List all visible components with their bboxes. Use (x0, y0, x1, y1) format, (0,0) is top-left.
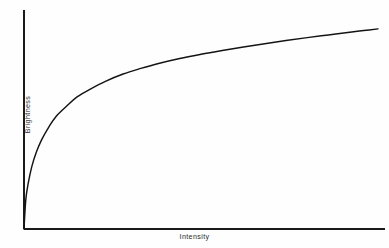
axes-group (24, 10, 385, 229)
chart-figure: Brightness Intensity (0, 0, 389, 248)
data-group (24, 29, 378, 229)
plot-canvas (0, 0, 389, 248)
data-series-brightness-response (24, 29, 378, 229)
x-axis-label: Intensity (0, 233, 389, 240)
